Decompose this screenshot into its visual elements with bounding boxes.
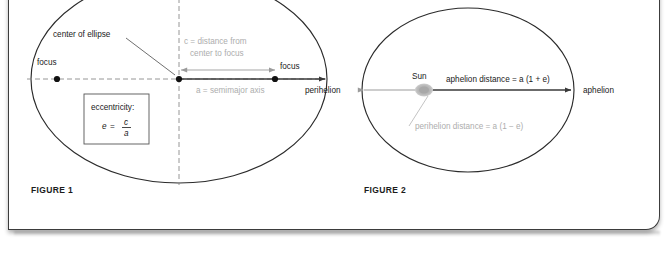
- perihelion-leader-line: [409, 96, 428, 126]
- label-aphelion-distance: aphelion distance = a (1 + e): [446, 75, 550, 84]
- figure-page: center of ellipse focus focus c = distan…: [0, 0, 672, 254]
- figure-1-caption: FIGURE 1: [31, 185, 73, 195]
- label-aphelion: aphelion: [583, 86, 614, 95]
- orbit-ellipse-outline: [362, 8, 574, 172]
- eccentricity-equals: =: [110, 122, 115, 131]
- label-focus-right: focus: [280, 62, 300, 71]
- eccentricity-lhs: e: [102, 122, 107, 131]
- label-semimajor-axis: a = semimajor axis: [196, 86, 264, 95]
- label-perihelion-distance: perihelion distance = a (1 − e): [415, 122, 524, 131]
- sun-core: [419, 86, 429, 93]
- figure-2-caption: FIGURE 2: [364, 185, 406, 195]
- eccentricity-box: [84, 94, 149, 144]
- eccentricity-numerator: c: [124, 118, 128, 127]
- label-center-of-ellipse: center of ellipse: [53, 30, 111, 39]
- ellipse-outline: [31, 0, 327, 183]
- card-drop-shadow: [14, 231, 660, 236]
- center-dot: [176, 76, 182, 82]
- center-leader-line: [126, 38, 175, 75]
- label-c-distance-line1: c = distance from: [184, 37, 247, 46]
- figure-1-diagram: center of ellipse focus focus c = distan…: [9, 0, 349, 230]
- label-focus-left: focus: [37, 58, 57, 67]
- focus-dot-right: [272, 76, 278, 82]
- sun-icon: [415, 84, 433, 97]
- eccentricity-title: eccentricity:: [91, 103, 134, 112]
- figure-card: center of ellipse focus focus c = distan…: [8, 0, 660, 230]
- focus-dot-left: [54, 76, 60, 82]
- label-sun: Sun: [412, 72, 427, 81]
- label-c-distance-line2: center to focus: [190, 49, 244, 58]
- eccentricity-denominator: a: [124, 129, 129, 138]
